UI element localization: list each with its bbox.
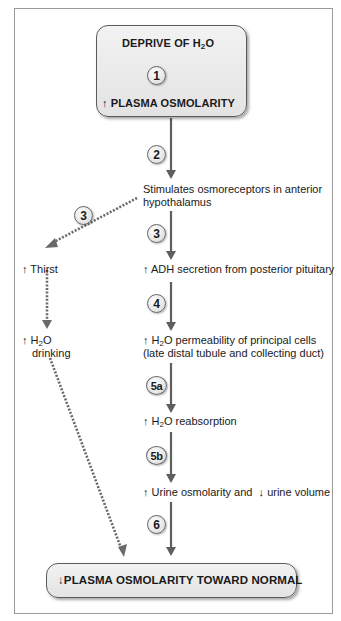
step-badge-6: 6	[147, 515, 166, 534]
dotted-arrow-to-normal	[50, 358, 127, 557]
step-badge-4: 4	[147, 294, 166, 313]
down-arrow-icon: ↓	[259, 486, 265, 498]
osmoreceptors-text: Stimulates osmoreceptors in anterior hyp…	[143, 183, 322, 209]
water-drinking-text: ↑ H2O drinking	[22, 334, 71, 360]
increase-plasma-osmolarity-label: ↑ PLASMA OSMOLARITY	[102, 97, 235, 109]
plasma-osmolarity-normal-label: ↓PLASMA OSMOLARITY TOWARD NORMAL	[58, 574, 303, 586]
step-badge-5a: 5a	[146, 376, 167, 395]
thirst-text: ↑ Thirst	[22, 263, 58, 276]
step-badge-5b: 5b	[146, 446, 167, 465]
arrow-step-6	[166, 502, 176, 556]
arrow-step-3	[166, 211, 176, 260]
water-permeability-text: ↑ H2O permeability of principal cells (l…	[143, 334, 324, 360]
urine-osmolarity-text: ↑ Urine osmolarity and ↓ urine volume	[143, 486, 330, 499]
step-badge-3-thirst: 3	[74, 206, 93, 225]
dotted-arrow-to-thirst	[45, 198, 137, 248]
step-badge-3-adh: 3	[147, 224, 166, 243]
deprive-water-label: DEPRIVE OF H2O	[122, 37, 214, 49]
up-arrow-icon: ↑	[143, 334, 149, 346]
up-arrow-icon: ↑	[143, 486, 149, 498]
up-arrow-icon: ↑	[143, 415, 149, 427]
up-arrow-icon: ↑	[143, 263, 149, 275]
step-badge-2: 2	[147, 145, 166, 164]
adh-secretion-text: ↑ ADH secretion from posterior pituitary	[143, 263, 334, 276]
water-reabsorption-text: ↑ H2O reabsorption	[143, 415, 237, 428]
up-arrow-icon: ↑	[22, 334, 28, 346]
arrow-step-5b	[166, 432, 176, 483]
arrow-step-2	[166, 118, 176, 179]
step-badge-1: 1	[147, 66, 166, 85]
arrow-step-4	[166, 282, 176, 331]
arrow-step-5a	[166, 363, 176, 413]
up-arrow-icon: ↑	[22, 263, 28, 275]
up-arrow-icon: ↑	[102, 97, 108, 109]
dotted-arrow-to-drinking	[42, 270, 52, 329]
